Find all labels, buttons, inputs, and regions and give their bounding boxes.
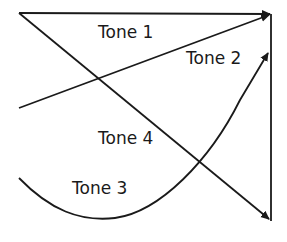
tone2-label: Tone 2 [185, 48, 241, 68]
tone-contour-diagram: Tone 1 Tone 2 Tone 4 Tone 3 [0, 0, 287, 242]
tone3-label: Tone 3 [71, 178, 127, 198]
tone1-label: Tone 1 [97, 22, 153, 42]
tone4-label: Tone 4 [97, 128, 153, 148]
tone1-contour-arrow [19, 13, 270, 14]
